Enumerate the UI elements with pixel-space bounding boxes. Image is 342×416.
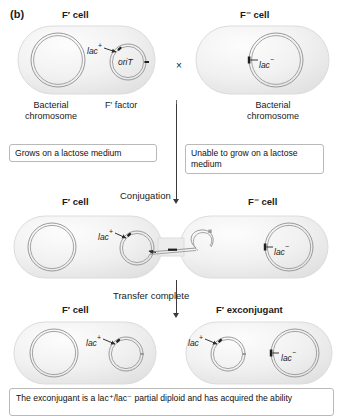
row3-right-lac-minus-label: lac− <box>281 347 296 365</box>
transfer-step-label: Transfer complete <box>113 290 189 301</box>
row1-lac-minus-sup: − <box>270 56 274 63</box>
row3-right-lac-minus-text: lac <box>281 353 292 363</box>
row2-lac-minus-text: lac <box>274 247 285 257</box>
row1-left-chromosome-line1: Bacterial <box>33 100 68 110</box>
row3-left-lac-plus-label: lac+ <box>86 332 101 350</box>
row2-lac-minus-sup: − <box>285 243 289 250</box>
row3-right-lac-plus-label: lac+ <box>188 332 203 350</box>
row1-right-chromosome-line1: Bacterial <box>255 100 290 110</box>
row1-right-cell-title: F⁻ cell <box>240 9 269 20</box>
left-growth-note: Grows on a lactose medium <box>9 144 157 162</box>
f-factor-label: F′ factor <box>105 100 137 110</box>
row1-right-chromosome-label: Bacterial chromosome <box>232 100 314 122</box>
conjugation-arrow-line <box>176 104 177 199</box>
row1-right-chromosome-line2: chromosome <box>247 111 299 121</box>
row2-lac-plus-text: lac <box>98 232 109 242</box>
row1-lac-minus-label: lac− <box>259 54 274 72</box>
row3-right-lac-plus-sup: + <box>199 334 203 341</box>
conjugation-step-label: Conjugation <box>120 190 171 201</box>
row1-left-cell-title: F′ cell <box>62 9 89 20</box>
right-growth-note: Unable to grow on a lactose medium <box>185 144 324 174</box>
row1-f-prime-cell <box>18 26 155 94</box>
row1-left-chromosome-line2: chromosome <box>25 111 77 121</box>
transfer-arrowhead <box>173 313 179 318</box>
row3-left-lac-plus-text: lac <box>86 338 97 348</box>
row1-left-chromosome-label: Bacterial chromosome <box>10 100 92 122</box>
row1-lac-plus-sup: + <box>98 42 102 49</box>
figure-caption-box: The exconjugant is a lac⁺/lac⁻ partial d… <box>9 388 334 416</box>
conjugation-arrowhead <box>173 199 179 204</box>
row2-lac-minus-label: lac− <box>274 241 289 259</box>
row3-left-lac-plus-sup: + <box>97 334 101 341</box>
row3-left-cell-title: F′ cell <box>62 304 89 315</box>
row3-right-cell-title: F′ exconjugant <box>216 304 283 315</box>
row1-lac-plus-label: lac+ <box>87 40 102 58</box>
row3-right-lac-plus-text: lac <box>188 338 199 348</box>
row2-left-cell-title: F′ cell <box>62 196 89 207</box>
panel-letter: (b) <box>10 8 24 20</box>
row3-right-lac-minus-sup: − <box>292 349 296 356</box>
row3-f-prime-cell <box>14 322 156 384</box>
row1-lac-minus-text: lac <box>259 60 270 70</box>
row2-right-cell-title: F⁻ cell <box>248 196 277 207</box>
cross-symbol: × <box>176 60 182 71</box>
row3-exconjugant-cell <box>186 322 332 384</box>
row2-lac-plus-sup: + <box>109 228 113 235</box>
orit-label: oriT <box>118 57 133 67</box>
row1-lac-plus-text: lac <box>87 46 98 56</box>
row2-lac-plus-label: lac+ <box>98 226 113 244</box>
